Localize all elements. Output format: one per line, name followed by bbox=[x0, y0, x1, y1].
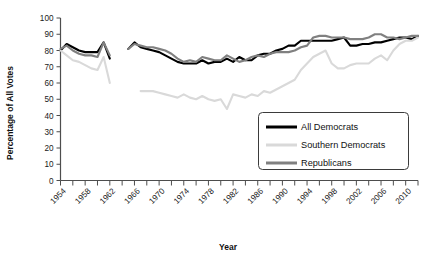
x-tick-label: 2010 bbox=[394, 186, 414, 206]
x-tick-label: 1986 bbox=[246, 186, 266, 206]
chart-legend: All DemocratsSouthern DemocratsRepublica… bbox=[259, 113, 409, 170]
legend-label: Republicans bbox=[301, 158, 352, 168]
y-tick-label: 10 bbox=[44, 160, 54, 169]
data-series-group bbox=[61, 34, 419, 109]
x-tick-label: 1974 bbox=[172, 186, 192, 206]
x-tick-label: 1958 bbox=[73, 186, 93, 206]
legend-label: All Democrats bbox=[301, 122, 359, 132]
y-tick-label: 0 bbox=[49, 177, 54, 186]
x-tick-label: 1998 bbox=[320, 186, 340, 206]
x-tick-label: 1970 bbox=[147, 186, 167, 206]
x-tick-label: 1978 bbox=[197, 186, 217, 206]
x-tick-label: 1994 bbox=[295, 186, 315, 206]
x-tick-label: 1982 bbox=[221, 186, 241, 206]
x-tick-label: 2002 bbox=[345, 186, 365, 206]
y-tick-label: 40 bbox=[44, 112, 54, 121]
y-tick-label: 90 bbox=[44, 30, 54, 39]
y-tick-label: 70 bbox=[44, 63, 54, 72]
x-tick-label: 1962 bbox=[98, 186, 118, 206]
y-tick-label: 30 bbox=[44, 128, 54, 137]
line-chart: Percentage of All Votes 0102030405060708… bbox=[0, 0, 432, 261]
y-tick-label: 80 bbox=[44, 47, 54, 56]
y-tick-label: 60 bbox=[44, 79, 54, 88]
y-tick-label: 50 bbox=[44, 95, 54, 104]
x-tick-label: 2006 bbox=[369, 186, 389, 206]
x-tick-label: 1966 bbox=[123, 186, 143, 206]
y-axis-title: Percentage of All Votes bbox=[5, 66, 15, 160]
series-all-democrats bbox=[61, 36, 419, 64]
chart-figure: Percentage of All Votes 0102030405060708… bbox=[0, 0, 432, 261]
x-axis-ticks: 1954195819621966197019741978198219861990… bbox=[49, 181, 418, 206]
x-tick-label: 1954 bbox=[49, 186, 69, 206]
x-axis-title-text: Year bbox=[219, 242, 238, 252]
y-tick-label: 20 bbox=[44, 144, 54, 153]
y-axis-ticks: 0102030405060708090100 bbox=[40, 14, 61, 186]
series-line bbox=[141, 38, 418, 110]
legend-label: Southern Democrats bbox=[301, 140, 386, 150]
x-tick-label: 1990 bbox=[271, 186, 291, 206]
y-axis-title-text: Percentage of All Votes bbox=[5, 66, 15, 160]
series-southern-democrats bbox=[61, 38, 419, 110]
y-tick-label: 100 bbox=[40, 14, 54, 23]
